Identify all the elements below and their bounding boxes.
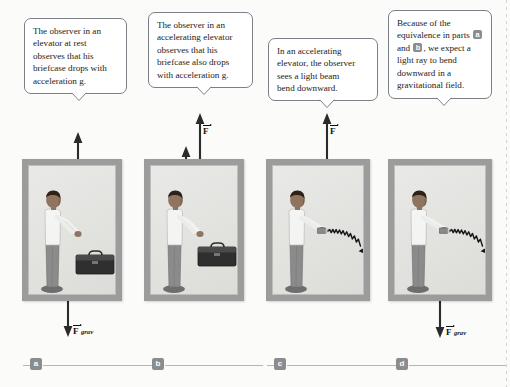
- part-a-rule: [43, 365, 148, 366]
- part-d-lead-rule: [389, 365, 396, 366]
- callout-a: The observer in an elevator at rest obse…: [24, 18, 127, 94]
- part-c-lead-rule: [267, 365, 274, 366]
- part-c-badge: c: [274, 358, 286, 370]
- panel-d-elevator: [388, 159, 492, 301]
- panel-c-vector-f-label: F: [330, 125, 338, 136]
- callout-d-tail: [436, 97, 452, 106]
- panel-a-elevator: [22, 159, 122, 301]
- part-d-rule: [409, 365, 506, 366]
- part-label-row-a: a: [23, 358, 148, 372]
- panel-c-light-beam: [317, 220, 364, 276]
- panel-d-interior: [394, 165, 486, 295]
- callout-c-tail: [319, 99, 335, 108]
- part-c-rule: [287, 365, 392, 366]
- callout-b-tail: [196, 86, 212, 95]
- part-b-rule: [165, 365, 263, 366]
- part-d-badge: d: [396, 358, 408, 370]
- panel-b-elevator: [144, 159, 244, 301]
- page-edge-artifact: [506, 0, 507, 387]
- panel-d-light-beam: [439, 220, 486, 276]
- callout-b-text: The observer in an accelerating elevator…: [157, 19, 245, 81]
- physics-figure: The observer in an elevator at rest obse…: [0, 0, 510, 387]
- panel-b-vector-f-label: F: [203, 125, 211, 136]
- panel-a-person: [37, 188, 89, 294]
- panel-b-interior: [150, 165, 238, 295]
- callout-a-text: The observer in an elevator at rest obse…: [33, 25, 119, 87]
- part-b-lead-rule: [145, 365, 152, 366]
- callout-c-text: In an accelerating elevator, the observe…: [277, 45, 370, 95]
- panel-c-elevator: [266, 159, 370, 301]
- part-a-badge: a: [30, 358, 42, 370]
- panel-a-interior: [28, 165, 116, 295]
- part-label-row-d: d: [389, 358, 509, 372]
- panel-a-vector-fgrav-label: Fgrav: [73, 325, 93, 336]
- inline-badge-b: b: [413, 43, 422, 52]
- callout-d-text: Because of the equivalence in parts a an…: [397, 17, 484, 91]
- panel-d-vector-fgrav-label: Fgrav: [446, 326, 466, 337]
- callout-a-tail: [71, 92, 87, 101]
- part-a-lead-rule: [23, 365, 30, 366]
- callout-c: In an accelerating elevator, the observe…: [268, 38, 378, 101]
- panel-c-interior: [272, 165, 364, 295]
- callout-d: Because of the equivalence in parts a an…: [388, 10, 492, 99]
- panel-a-briefcase: [74, 248, 116, 276]
- part-label-row-b: b: [145, 358, 270, 372]
- panel-b-briefcase: [196, 240, 238, 268]
- callout-b: The observer in an accelerating elevator…: [148, 12, 253, 88]
- inline-badge-a: a: [473, 30, 482, 39]
- part-label-row-c: c: [267, 358, 392, 372]
- part-b-badge: b: [152, 358, 164, 370]
